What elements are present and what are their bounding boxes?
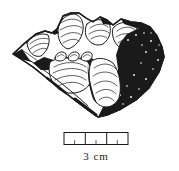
lithic-figure: 3 cm <box>0 0 179 171</box>
stipple-dot <box>150 40 152 42</box>
stipple-dot <box>152 68 154 70</box>
stipple-dot <box>158 44 159 45</box>
artifact-drawing <box>13 13 164 117</box>
stipple-dot <box>135 34 137 36</box>
stipple-dot <box>140 62 142 64</box>
scar-bumps <box>55 52 92 61</box>
stipple-dot <box>145 51 147 53</box>
stipple-dot <box>145 78 147 80</box>
stipple-dot <box>155 49 157 51</box>
stipple-dot <box>141 44 143 46</box>
scale-label: 3 cm <box>83 150 109 162</box>
stipple-dot <box>138 88 140 90</box>
stipple-dot <box>130 96 132 98</box>
stipple-dot <box>127 39 129 41</box>
stipple-dot <box>122 103 124 105</box>
stipple-dot <box>143 32 145 34</box>
figure-canvas: 3 cm <box>0 0 179 171</box>
scale-bar <box>64 133 128 145</box>
stipple-dot <box>157 59 159 61</box>
stipple-dot <box>126 85 128 87</box>
stipple-dot <box>133 74 135 76</box>
stipple-dot <box>150 32 151 33</box>
